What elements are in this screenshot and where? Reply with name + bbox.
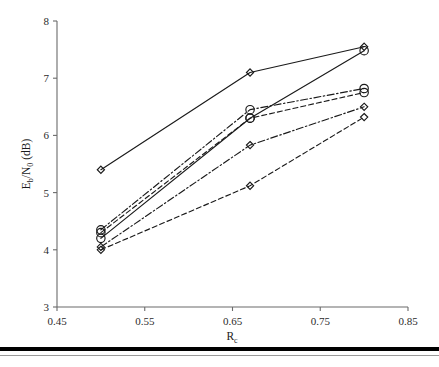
eb-n0-vs-rc-line-chart: 345678 0.450.550.650.750.85 Eb/N0 (dB) R… bbox=[0, 0, 439, 367]
y-tick-label: 4 bbox=[44, 244, 50, 256]
chart-figure: 345678 0.450.550.650.750.85 Eb/N0 (dB) R… bbox=[0, 0, 439, 367]
x-tick-label: 0.75 bbox=[311, 315, 331, 327]
x-tick-label: 0.45 bbox=[47, 315, 67, 327]
x-tick-label: 0.55 bbox=[135, 315, 155, 327]
y-tick-label: 8 bbox=[44, 15, 50, 27]
y-tick-label: 5 bbox=[44, 187, 50, 199]
x-tick-label: 0.85 bbox=[398, 315, 418, 327]
y-tick-label: 6 bbox=[44, 129, 50, 141]
y-tick-label: 3 bbox=[44, 301, 50, 313]
x-tick-label: 0.65 bbox=[223, 315, 243, 327]
y-tick-label: 7 bbox=[44, 72, 50, 84]
chart-background bbox=[0, 0, 439, 367]
page-footer-rule bbox=[0, 347, 439, 351]
page-footer-hairline bbox=[0, 355, 439, 356]
